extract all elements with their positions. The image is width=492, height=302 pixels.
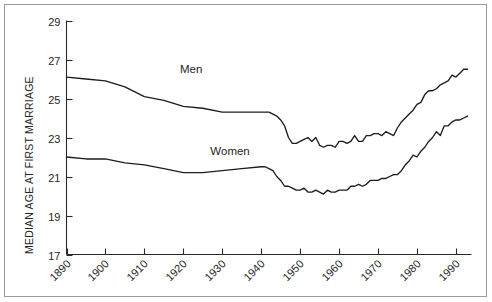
y-axis-ticks: 17192123252729	[48, 16, 72, 262]
y-tick-label: 29	[48, 16, 60, 28]
x-tick-label: 1920	[163, 257, 189, 283]
series-line-women	[67, 116, 468, 194]
x-tick-label: 1970	[358, 257, 384, 283]
x-tick-label: 1940	[241, 257, 267, 283]
series-annotation-women: Women	[210, 145, 249, 157]
x-tick-label: 1900	[85, 257, 111, 283]
y-tick-label: 23	[48, 133, 60, 145]
line-chart-plot: MEDIAN AGE AT FIRST MARRIAGE 17192123252…	[0, 0, 492, 302]
y-tick-label: 17	[48, 250, 60, 262]
x-tick-label: 1990	[436, 257, 462, 283]
x-tick-label: 1960	[319, 257, 345, 283]
x-tick-label: 1930	[202, 257, 228, 283]
x-tick-label: 1950	[280, 257, 306, 283]
y-tick-label: 19	[48, 211, 60, 223]
y-axis-title: MEDIAN AGE AT FIRST MARRIAGE	[23, 76, 35, 254]
y-axis-title-group: MEDIAN AGE AT FIRST MARRIAGE	[23, 76, 35, 254]
chart-figure: MEDIAN AGE AT FIRST MARRIAGE 17192123252…	[0, 0, 492, 302]
x-tick-label: 1910	[124, 257, 150, 283]
y-tick-label: 25	[48, 94, 60, 106]
data-series-group	[67, 69, 468, 194]
series-line-men	[67, 69, 468, 147]
y-tick-label: 27	[48, 55, 60, 67]
series-annotation-men: Men	[180, 63, 202, 75]
y-tick-label: 21	[48, 172, 60, 184]
x-axis-ticks: 1890190019101920193019401950196019701980…	[47, 249, 462, 284]
x-tick-label: 1980	[397, 257, 423, 283]
